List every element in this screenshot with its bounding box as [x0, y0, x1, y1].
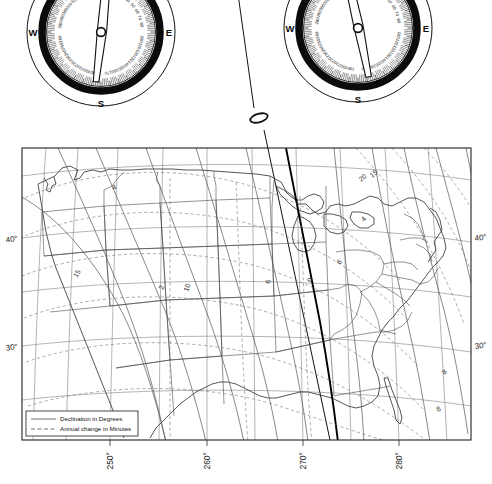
longitude-label-270: 270° — [298, 452, 308, 470]
contour-label: 15 — [72, 268, 82, 278]
annual-change-contours — [20, 148, 484, 442]
longitude-label-260: 260° — [202, 452, 212, 470]
contour-label: 4 — [111, 183, 117, 191]
compass-cardinal-S: S — [355, 94, 361, 105]
contour-label: 6 — [335, 258, 343, 265]
latitude-label-right-30: 30° — [474, 340, 487, 351]
contour-labels: 4 15 2 10 6 0 20 15 4 6 8 8 — [72, 168, 448, 412]
map-parallels — [22, 164, 471, 406]
map-frame — [22, 148, 471, 440]
compass-pivot — [97, 28, 106, 37]
sight-line-upper — [238, 0, 254, 108]
us-coastline — [38, 166, 446, 438]
left-compass-rose[interactable]: 1020304050607080100110120130140150160170… — [27, 0, 175, 109]
legend-label-annual-change: Annual change in Minutes — [60, 425, 131, 432]
longitude-label-250: 250° — [105, 452, 115, 470]
compass-cardinal-W: W — [286, 23, 295, 34]
figure-root: 1020304050607080100110120130140150160170… — [0, 0, 492, 484]
compass-pivot — [354, 24, 363, 33]
latitude-label-left-30: 30° — [5, 342, 18, 353]
isogonic-map[interactable]: 4 15 2 10 6 0 20 15 4 6 8 8 40° — [5, 148, 487, 470]
contour-label: 0 — [306, 277, 313, 282]
figure-canvas: 1020304050607080100110120130140150160170… — [0, 0, 492, 484]
sight-line-lower — [264, 130, 330, 440]
contour-label: 4 — [360, 215, 368, 223]
legend-label-declination: Declination in Degrees — [60, 415, 122, 422]
compass-cardinal-S: S — [98, 98, 104, 109]
contour-label: 6 — [264, 279, 272, 284]
contour-label: 10 — [182, 283, 191, 293]
contour-label: 8 — [435, 405, 442, 413]
map-legend: Declination in Degrees Annual change in … — [26, 411, 138, 436]
longitude-ticks — [110, 440, 399, 446]
declination-contours — [20, 148, 486, 442]
right-compass-rose[interactable]: 1020304050607080100110120130140150160170… — [284, 0, 432, 105]
latitude-label-left-40: 40° — [5, 234, 18, 245]
station-marker — [249, 111, 269, 124]
compass-cardinal-E: E — [166, 27, 172, 38]
contour-label: 8 — [441, 368, 448, 376]
compass-cardinal-E: E — [423, 23, 429, 34]
latitude-label-right-40: 40° — [474, 232, 487, 243]
contour-label: 20 — [357, 172, 368, 182]
longitude-label-280: 280° — [394, 452, 404, 470]
compass-cardinal-W: W — [29, 27, 38, 38]
